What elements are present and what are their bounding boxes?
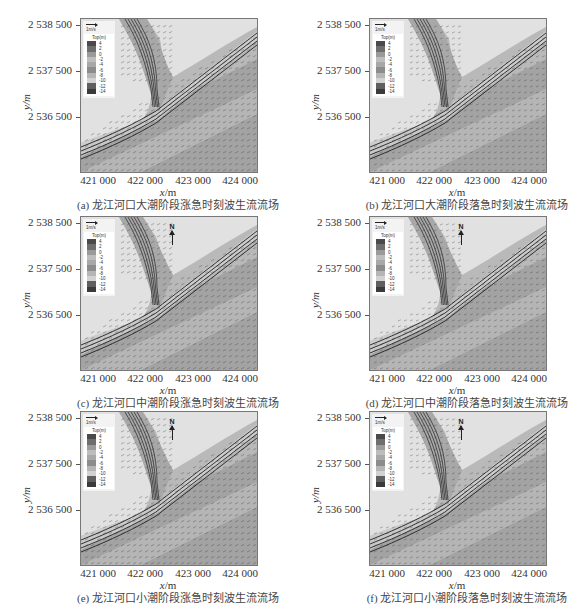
vector-scale: 1m/s xyxy=(372,21,404,33)
north-arrow: N xyxy=(167,418,177,440)
colorbar-level: 2 xyxy=(388,244,391,249)
y-tick-label: 2 536 500 xyxy=(291,308,361,320)
map-plot-area: 1m/s Top(m) 420-2-4-6-8-10-12-14 N xyxy=(80,411,258,566)
colorbar-level: -4 xyxy=(388,455,392,460)
colorbar-level: -2 xyxy=(388,450,392,455)
colorbar-legend: 1m/s Top(m) 420-2-4-6-8-10-12-14 xyxy=(372,414,404,491)
x-tick-label: 423 000 xyxy=(175,372,211,384)
y-tick-label: 2 536 500 xyxy=(291,503,361,515)
colorbar-level: 2 xyxy=(388,46,391,51)
colorbar-level: -4 xyxy=(99,455,103,460)
figure-panel-d: y/m 2 538 500 2 537 500 2 536 500 1m/s T… xyxy=(289,198,577,398)
colorbar-level: -10 xyxy=(99,471,106,476)
figure-panel-c: y/m 2 538 500 2 537 500 2 536 500 1m/s T… xyxy=(0,198,288,398)
figure-panel-a: y/m 2 538 500 2 537 500 2 536 500 1m/s T… xyxy=(0,0,288,200)
colorbar-level: -6 xyxy=(99,68,103,73)
arrow-right-icon xyxy=(375,222,385,223)
colorbar-legend: 1m/s Top(m) 420-2-4-6-8-10-12-14 xyxy=(372,21,404,98)
colorbar-level: -4 xyxy=(388,260,392,265)
x-tick-label: 423 000 xyxy=(175,174,211,186)
colorbar-title: Top(m) xyxy=(85,35,113,40)
y-tick-label: 2 536 500 xyxy=(2,110,72,122)
colorbar-level: 0 xyxy=(388,250,391,255)
y-tick-label: 2 537 500 xyxy=(2,262,72,274)
y-axis-label: y/m xyxy=(309,487,321,503)
colorbar-level: -14 xyxy=(388,482,395,487)
colorbar-level: -4 xyxy=(99,62,103,67)
y-axis-label: y/m xyxy=(20,292,32,308)
x-tick-label: 423 000 xyxy=(175,567,211,579)
vector-scale-label: 1m/s xyxy=(86,27,96,32)
y-tick-label: 2 537 500 xyxy=(291,457,361,469)
colorbar-level: -10 xyxy=(388,471,395,476)
colorbar-level: -10 xyxy=(99,78,106,83)
map-plot-area: 1m/s Top(m) 420-2-4-6-8-10-12-14 N xyxy=(80,216,258,371)
x-tick-label: 423 000 xyxy=(464,372,500,384)
arrow-right-icon xyxy=(86,417,96,418)
color-swatch xyxy=(87,482,96,487)
y-axis-label: y/m xyxy=(309,94,321,110)
y-tick-label: 2 536 500 xyxy=(2,308,72,320)
colorbar-level: -2 xyxy=(99,255,103,260)
colorbar-level: 4 xyxy=(388,41,391,46)
north-arrow: N xyxy=(456,223,466,245)
arrow-right-icon xyxy=(375,24,385,25)
arrow-up-icon xyxy=(172,231,173,245)
north-arrow: N xyxy=(167,223,177,245)
x-tick-label: 422 000 xyxy=(127,567,163,579)
x-tick-label: 422 000 xyxy=(127,174,163,186)
vector-scale: 1m/s xyxy=(372,219,404,231)
north-label: N xyxy=(456,418,466,425)
y-tick-label: 2 537 500 xyxy=(291,64,361,76)
y-axis-label: y/m xyxy=(20,487,32,503)
vector-scale: 1m/s xyxy=(372,414,404,426)
x-tick-label: 422 000 xyxy=(416,174,452,186)
arrow-up-icon xyxy=(461,231,462,245)
colorbar-level: -2 xyxy=(99,450,103,455)
y-tick-label: 2 537 500 xyxy=(2,64,72,76)
arrow-right-icon xyxy=(86,222,96,223)
colorbar-level: -14 xyxy=(99,482,106,487)
colorbar-title: Top(m) xyxy=(374,428,402,433)
colorbar-row: -14 xyxy=(374,482,402,487)
colorbar-level: -14 xyxy=(99,89,106,94)
x-tick-label: 421 000 xyxy=(369,567,405,579)
map-plot-area: 1m/s Top(m) 420-2-4-6-8-10-12-14 N xyxy=(369,411,547,566)
x-tick-label: 422 000 xyxy=(416,567,452,579)
figure-panel-b: y/m 2 538 500 2 537 500 2 536 500 1m/s T… xyxy=(289,0,577,200)
colorbar-level: -2 xyxy=(388,255,392,260)
vector-scale-label: 1m/s xyxy=(375,420,385,425)
colorbar-level: 0 xyxy=(388,52,391,57)
north-label: N xyxy=(167,223,177,230)
x-tick-label: 424 000 xyxy=(511,567,547,579)
y-tick-label: 2 538 500 xyxy=(291,18,361,30)
colorbar-level: -6 xyxy=(388,266,392,271)
colorbar-level: -10 xyxy=(99,276,106,281)
vector-scale-label: 1m/s xyxy=(86,225,96,230)
x-tick-label: 421 000 xyxy=(80,174,116,186)
colorbar-row: -14 xyxy=(85,89,113,94)
colorbar-level: -8 xyxy=(99,73,103,78)
colorbar-level: 2 xyxy=(388,439,391,444)
y-tick-label: 2 538 500 xyxy=(2,18,72,30)
colorbar-level: 4 xyxy=(99,41,102,46)
colorbar-level: -2 xyxy=(388,57,392,62)
x-tick-label: 421 000 xyxy=(369,372,405,384)
colorbar-level: -2 xyxy=(99,57,103,62)
colorbar-level: 4 xyxy=(99,239,102,244)
vector-scale-label: 1m/s xyxy=(86,420,96,425)
y-tick-label: 2 538 500 xyxy=(291,216,361,228)
colorbar-title: Top(m) xyxy=(85,428,113,433)
north-label: N xyxy=(456,223,466,230)
colorbar-title: Top(m) xyxy=(374,35,402,40)
colorbar-level: -14 xyxy=(388,287,395,292)
y-tick-label: 2 536 500 xyxy=(2,503,72,515)
map-plot-area: 1m/s Top(m) 420-2-4-6-8-10-12-14 xyxy=(369,18,547,173)
x-tick-label: 421 000 xyxy=(80,372,116,384)
colorbar-legend: 1m/s Top(m) 420-2-4-6-8-10-12-14 xyxy=(83,219,115,296)
colorbar-legend: 1m/s Top(m) 420-2-4-6-8-10-12-14 xyxy=(83,21,115,98)
y-axis-label: y/m xyxy=(309,292,321,308)
colorbar-level: -12 xyxy=(388,282,395,287)
colorbar-level: -12 xyxy=(99,84,106,89)
colorbar-level: -12 xyxy=(388,477,395,482)
